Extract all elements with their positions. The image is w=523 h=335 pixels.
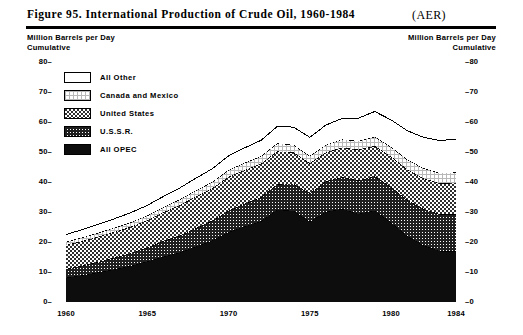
figure-panel: Figure 95. International Production of C… — [0, 0, 523, 335]
legend-item: United States — [64, 107, 179, 121]
legend-item: All OPEC — [64, 143, 179, 157]
legend-label: Canada and Mexico — [100, 91, 179, 100]
legend-label: All Other — [100, 73, 136, 82]
y-tick-label-right-60: –60 — [465, 117, 495, 126]
y-tick-label-left-40: 40– — [22, 177, 52, 186]
x-tick-label-1965: 1965 — [127, 309, 167, 318]
source-tag: (AER) — [412, 8, 446, 23]
x-tick-label-1975: 1975 — [290, 309, 330, 318]
title-row: Figure 95. International Production of C… — [0, 4, 523, 24]
legend-swatch-checker — [64, 108, 91, 119]
legend-label: United States — [100, 109, 154, 118]
title-divider — [26, 26, 496, 29]
x-tick-label-1960: 1960 — [46, 309, 86, 318]
x-tick-label-1980: 1980 — [371, 309, 411, 318]
legend-item: Canada and Mexico — [64, 89, 179, 103]
y-tick-label-right-0: –0 — [465, 297, 495, 306]
page-title: Figure 95. International Production of C… — [27, 8, 355, 20]
legend-label: U.S.S.R. — [100, 127, 133, 136]
legend-swatch-fine-grid — [64, 90, 91, 101]
left-axis-caption-line2: Cumulative — [27, 43, 115, 53]
left-axis-caption: Million Barrels per Day Cumulative — [27, 33, 115, 52]
x-tick-label-1970: 1970 — [209, 309, 249, 318]
y-tick-label-left-10: 10– — [22, 267, 52, 276]
legend-swatch-blank — [64, 72, 91, 83]
y-tick-label-left-30: 30– — [22, 207, 52, 216]
y-tick-label-left-60: 60– — [22, 117, 52, 126]
y-tick-label-left-0: 0– — [22, 297, 52, 306]
y-tick-label-left-70: 70– — [22, 87, 52, 96]
y-tick-label-right-40: –40 — [465, 177, 495, 186]
y-tick-label-left-20: 20– — [22, 237, 52, 246]
x-tick-label-1984: 1984 — [436, 309, 476, 318]
y-tick-label-right-70: –70 — [465, 87, 495, 96]
y-tick-label-left-80: 80– — [22, 57, 52, 66]
y-tick-label-right-30: –30 — [465, 207, 495, 216]
y-tick-label-right-10: –10 — [465, 267, 495, 276]
y-tick-label-right-80: –80 — [465, 57, 495, 66]
right-axis-caption-line2: Cumulative — [408, 43, 496, 53]
legend-swatch-dense-grid — [64, 126, 91, 137]
right-axis-caption: Million Barrels per Day Cumulative — [408, 33, 496, 52]
legend-item: All Other — [64, 71, 179, 85]
legend-item: U.S.S.R. — [64, 125, 179, 139]
y-tick-label-left-50: 50– — [22, 147, 52, 156]
legend: All OtherCanada and MexicoUnited StatesU… — [64, 71, 179, 161]
y-tick-label-right-20: –20 — [465, 237, 495, 246]
legend-swatch-solid — [64, 144, 91, 155]
legend-label: All OPEC — [100, 145, 137, 154]
y-tick-label-right-50: –50 — [465, 147, 495, 156]
right-axis-caption-line1: Million Barrels per Day — [408, 33, 496, 43]
left-axis-caption-line1: Million Barrels per Day — [27, 33, 115, 43]
